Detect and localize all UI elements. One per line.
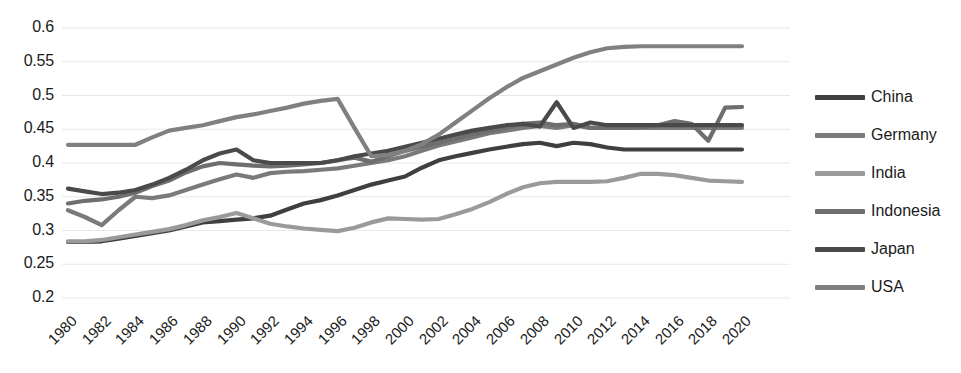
y-tick-label: 0.45 bbox=[8, 119, 54, 137]
legend-swatch-icon bbox=[815, 95, 865, 100]
legend-label: India bbox=[871, 164, 906, 182]
legend-item-japan[interactable]: Japan bbox=[815, 230, 961, 268]
legend-swatch-icon bbox=[815, 171, 865, 176]
legend-item-china[interactable]: China bbox=[815, 78, 961, 116]
legend-swatch-icon bbox=[815, 209, 865, 214]
gridlines bbox=[62, 28, 790, 298]
y-tick-label: 0.55 bbox=[8, 52, 54, 70]
y-tick-label: 0.4 bbox=[8, 153, 54, 171]
legend-item-usa[interactable]: USA bbox=[815, 268, 961, 306]
series-lines bbox=[68, 46, 742, 242]
legend-label: Japan bbox=[871, 240, 915, 258]
legend-item-germany[interactable]: Germany bbox=[815, 116, 961, 154]
y-tick-label: 0.6 bbox=[8, 18, 54, 36]
legend-item-indonesia[interactable]: Indonesia bbox=[815, 192, 961, 230]
legend-swatch-icon bbox=[815, 285, 865, 290]
legend-label: USA bbox=[871, 278, 904, 296]
series-line-usa bbox=[68, 46, 742, 156]
plot-area: 0.60.550.50.450.40.350.30.250.2 19801982… bbox=[0, 0, 800, 373]
line-chart: 0.60.550.50.450.40.350.30.250.2 19801982… bbox=[0, 0, 961, 373]
legend-item-india[interactable]: India bbox=[815, 154, 961, 192]
y-tick-label: 0.3 bbox=[8, 221, 54, 239]
legend: ChinaGermanyIndiaIndonesiaJapanUSA bbox=[815, 78, 961, 306]
y-tick-label: 0.35 bbox=[8, 187, 54, 205]
series-line-india bbox=[68, 174, 742, 242]
legend-label: Germany bbox=[871, 126, 937, 144]
y-tick-label: 0.2 bbox=[8, 288, 54, 306]
legend-swatch-icon bbox=[815, 133, 865, 138]
legend-label: China bbox=[871, 88, 913, 106]
y-tick-label: 0.25 bbox=[8, 254, 54, 272]
legend-label: Indonesia bbox=[871, 202, 940, 220]
legend-swatch-icon bbox=[815, 247, 865, 252]
y-tick-label: 0.5 bbox=[8, 86, 54, 104]
